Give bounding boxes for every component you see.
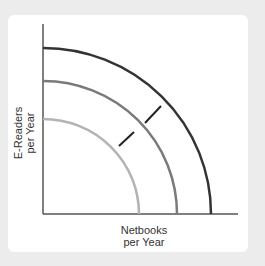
ppf-curve-outer bbox=[43, 48, 211, 214]
shift-arrow-1 bbox=[119, 132, 134, 146]
x-axis-label: Netbooks per Year bbox=[104, 224, 184, 248]
y-axis-label-line2: per Year bbox=[24, 93, 36, 173]
ppf-curve-inner bbox=[43, 119, 139, 214]
x-axis-label-line1: Netbooks bbox=[104, 224, 184, 236]
y-axis-label-line1: E-Readers bbox=[12, 93, 24, 173]
x-axis-label-line2: per Year bbox=[104, 236, 184, 248]
shift-arrow-2 bbox=[145, 106, 161, 123]
